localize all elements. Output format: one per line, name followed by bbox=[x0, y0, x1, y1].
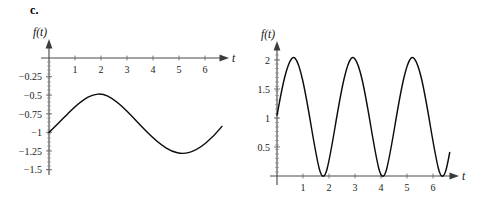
figure-container: c. bbox=[0, 0, 495, 198]
chart-panel-d: d. bbox=[248, 0, 495, 198]
x-tick-label-c: 2 bbox=[99, 64, 104, 75]
y-tick-label-c: −1.25 bbox=[19, 146, 42, 157]
x-axis-title-d: t bbox=[462, 170, 466, 182]
x-tick-label-c: 1 bbox=[73, 64, 78, 75]
y-tick-label-c: −0.75 bbox=[19, 109, 42, 120]
y-axis-title-c: f(t) bbox=[33, 26, 47, 39]
y-tick-label-c: −0.5 bbox=[24, 90, 42, 101]
x-tick-label-d: 2 bbox=[327, 182, 332, 193]
x-tick-label-d: 5 bbox=[405, 182, 410, 193]
x-tick-label-d: 4 bbox=[379, 182, 384, 193]
plot-c-svg: 1 2 3 4 5 6 −0.25 −0.5 −0.75 −1 −1.25 −1… bbox=[0, 0, 248, 198]
data-curve-c bbox=[49, 94, 222, 153]
y-tick-label-d: 1.5 bbox=[258, 84, 271, 95]
x-tick-label-c: 6 bbox=[203, 64, 208, 75]
y-tick-label-d: 1 bbox=[265, 113, 270, 124]
x-tick-label-d: 1 bbox=[301, 182, 306, 193]
x-axis-arrow-d bbox=[450, 173, 460, 180]
x-tick-label-c: 3 bbox=[125, 64, 130, 75]
y-axis-arrow-d bbox=[274, 41, 281, 51]
y-tick-label-c: −1 bbox=[31, 127, 42, 138]
x-tick-label-d: 6 bbox=[431, 182, 436, 193]
x-axis-title-c: t bbox=[232, 52, 236, 64]
y-tick-label-c: −0.25 bbox=[19, 71, 42, 82]
x-tick-label-c: 5 bbox=[177, 64, 182, 75]
y-axis-arrow-c bbox=[46, 39, 53, 49]
y-tick-label-d: 2 bbox=[265, 55, 270, 66]
y-tick-label-c: −1.5 bbox=[24, 164, 42, 175]
x-axis-arrow-c bbox=[220, 55, 230, 62]
y-axis-title-d: f(t) bbox=[261, 28, 275, 41]
data-curve-d bbox=[277, 57, 450, 176]
chart-panel-c: c. bbox=[0, 0, 248, 198]
x-tick-label-c: 4 bbox=[151, 64, 156, 75]
y-tick-label-d: 0.5 bbox=[258, 142, 271, 153]
x-tick-label-d: 3 bbox=[353, 182, 358, 193]
plot-d-svg: 1 2 3 4 5 6 0.5 1 1.5 2 t f(t) bbox=[248, 0, 495, 198]
